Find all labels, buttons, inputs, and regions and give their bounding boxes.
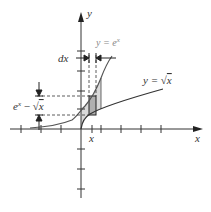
y-axis-arrow-icon bbox=[78, 12, 84, 22]
height-label: ex − √x bbox=[13, 100, 44, 112]
x-axis-label: x bbox=[194, 132, 200, 144]
y-axis-label: y bbox=[86, 7, 92, 19]
exp-curve-label: y = ex bbox=[95, 36, 121, 48]
dx-label: dx bbox=[58, 52, 69, 64]
dx-dimension bbox=[76, 53, 116, 63]
area-between-curves-diagram: dx ex − √x y = ex y = √x y x x bbox=[0, 0, 211, 212]
strip-x-label: x bbox=[88, 132, 94, 144]
sqrt-curve-label: y = √x bbox=[142, 74, 172, 86]
